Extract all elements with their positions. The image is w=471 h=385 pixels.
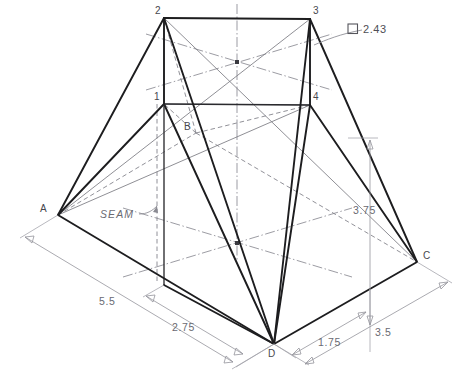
hidden-edge-b-4 — [196, 105, 310, 133]
edge-c-3 — [310, 19, 417, 262]
dimension-2-75-group — [143, 285, 274, 369]
dim-line-1-75 — [292, 312, 366, 355]
vertex-label-4: 4 — [313, 92, 319, 102]
dimension-label-1-75: 1.75 — [318, 337, 341, 348]
vertex-label-c: C — [423, 251, 431, 261]
dimension-label-5-5: 5.5 — [99, 296, 115, 307]
dim-line-5-5 — [25, 237, 233, 362]
edge-d-1 — [164, 104, 274, 344]
center-mark-base — [235, 241, 239, 245]
hidden-edge-b-c — [196, 133, 417, 262]
edge-a-2 — [58, 18, 164, 215]
edge-a-1 — [58, 104, 164, 215]
ext-line-3-5-end — [417, 262, 452, 283]
dimension-label-3-5: 3.5 — [375, 327, 391, 338]
construction-3-to-a — [58, 19, 310, 215]
square-note-value: 2.43 — [363, 24, 387, 35]
top-edge-1-4 — [164, 104, 310, 105]
leaders-group — [139, 24, 362, 214]
base-edge-d-c — [274, 262, 417, 344]
vertex-label-3: 3 — [313, 6, 319, 16]
leader-seam — [139, 206, 157, 214]
isometric-drawing-canvas: 2 3 1 4 A B C D SEAM 2.43 5.5 2.75 1.75 … — [0, 0, 471, 385]
arrow-3-5-start — [305, 357, 314, 364]
edge-d-4 — [274, 105, 310, 344]
vertex-label-d: D — [268, 349, 276, 359]
dimension-5-5-group — [20, 215, 274, 367]
construction-2-to-c — [164, 18, 417, 262]
vertex-label-b: B — [184, 122, 191, 132]
base-edge-a-d — [58, 215, 274, 344]
edge-d-2 — [164, 18, 274, 344]
edge-d-3 — [274, 19, 310, 344]
vertex-label-a: A — [40, 204, 47, 214]
center-mark-top — [235, 60, 239, 64]
hidden-edge-a-b — [58, 133, 196, 215]
vertex-label-2: 2 — [155, 6, 161, 16]
arrow-1-75-start — [292, 348, 301, 355]
dim-line-3-5 — [305, 282, 448, 364]
edge-c-4 — [310, 105, 417, 262]
arrow-1-75-end — [358, 312, 366, 319]
dimension-label-3-75: 3.75 — [353, 205, 376, 216]
top-edge-2-3 — [164, 18, 310, 19]
ext-line-3-5-start — [274, 344, 309, 365]
drawing-svg — [0, 0, 471, 385]
dimension-label-2-75: 2.75 — [172, 322, 195, 333]
seam-label: SEAM — [100, 209, 134, 220]
vertex-label-1: 1 — [154, 92, 160, 102]
arrow-3-5-end — [439, 282, 448, 289]
ext-line-5-5-start — [20, 215, 58, 238]
